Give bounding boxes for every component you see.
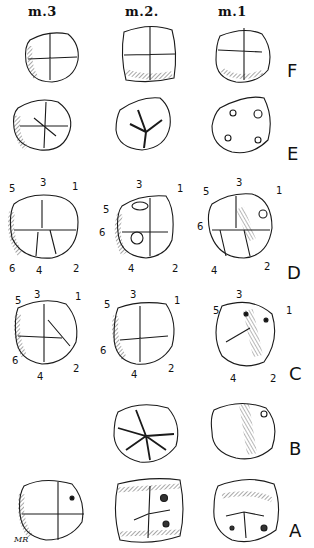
artist-signature: MR — [14, 535, 28, 544]
cusp-label: 4 — [36, 266, 42, 276]
cusp-label: 2 — [172, 264, 178, 274]
cusp-label: 3 — [34, 290, 40, 300]
cusp-label: 3 — [236, 290, 242, 300]
molar-illustrations — [0, 0, 314, 548]
cusp-label: 4 — [37, 372, 43, 382]
cusp-label: 4 — [131, 370, 137, 380]
tooth-F-m1 — [216, 28, 270, 82]
cusp-label: 6 — [197, 222, 203, 232]
tooth-F-m2 — [122, 26, 175, 82]
tooth-F-m3 — [26, 33, 79, 82]
cusp-label: 5 — [203, 187, 209, 197]
cusp-label: 1 — [286, 306, 292, 316]
tooth-A-m1 — [214, 479, 279, 541]
cusp-label: 6 — [100, 346, 106, 356]
cusp-label: 2 — [168, 364, 174, 374]
tooth-A-m3 — [20, 480, 85, 540]
tooth-E-m1 — [212, 97, 270, 153]
cusp-label: 5 — [103, 205, 109, 215]
cusp-label: 2 — [73, 264, 79, 274]
tooth-A-m2 — [115, 479, 183, 543]
cusp-label: 6 — [99, 228, 105, 238]
tooth-C-m3 — [15, 301, 77, 364]
cusp-label: 2 — [73, 364, 79, 374]
tooth-D-m3 — [10, 195, 78, 258]
cusp-label: 5 — [9, 184, 15, 194]
cusp-label: 4 — [128, 264, 134, 274]
cusp-label: 5 — [15, 296, 21, 306]
tooth-D-m1 — [208, 194, 272, 258]
cusp-label: 5 — [213, 306, 219, 316]
cusp-label: 1 — [174, 296, 180, 306]
tooth-C-m1 — [216, 302, 275, 365]
cusp-label: 5 — [104, 300, 110, 310]
cusp-label: 4 — [211, 266, 217, 276]
cusp-label: 6 — [12, 356, 18, 366]
tooth-E-m2 — [116, 98, 170, 150]
cusp-label: 4 — [230, 374, 236, 384]
cusp-label: 3 — [40, 178, 46, 188]
cusp-label: 2 — [270, 374, 276, 384]
cusp-label: 6 — [9, 264, 15, 274]
cusp-label: 1 — [75, 292, 81, 302]
tooth-E-m3 — [14, 100, 71, 150]
cusp-label: 1 — [72, 182, 78, 192]
cusp-label: 3 — [136, 180, 142, 190]
tooth-B-m1 — [211, 403, 275, 458]
cusp-label: 1 — [177, 184, 183, 194]
cusp-label: 3 — [236, 178, 242, 188]
tooth-C-m2 — [114, 303, 174, 365]
cusp-label: 2 — [264, 262, 270, 272]
tooth-B-m2 — [114, 405, 178, 462]
cusp-label: 1 — [276, 186, 282, 196]
cusp-label: 3 — [130, 290, 136, 300]
tooth-D-m2 — [118, 196, 174, 258]
